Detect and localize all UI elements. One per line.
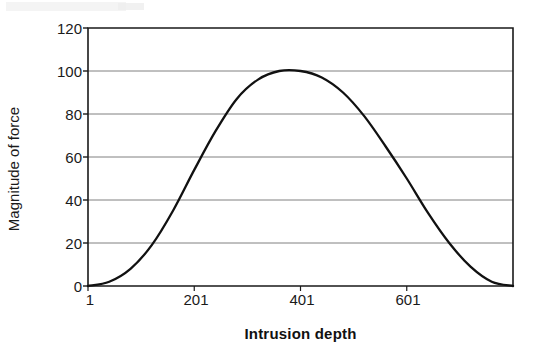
data-series-line	[88, 70, 513, 286]
axis-tick-marks	[83, 28, 407, 291]
gridlines	[88, 71, 513, 243]
plot-area	[0, 0, 537, 360]
chart-container: Magnitude of force 120 100 80 60 40 20 0…	[0, 0, 537, 360]
